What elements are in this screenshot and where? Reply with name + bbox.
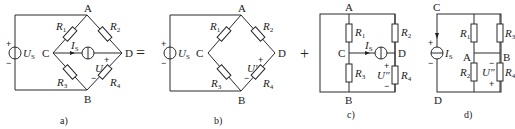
node-b-label: B xyxy=(238,94,245,106)
r3-label: R3 xyxy=(504,27,515,41)
caption-a: a) xyxy=(60,115,68,127)
node-d-label: D xyxy=(434,94,442,106)
r3-label: R3 xyxy=(210,77,222,91)
r1-label: R1 xyxy=(55,20,67,34)
resistor-r4 xyxy=(392,66,398,84)
r1-label: R1 xyxy=(459,27,471,41)
equals-operator: = xyxy=(136,44,145,61)
u-minus: − xyxy=(91,73,96,83)
u-minus: − xyxy=(489,58,494,68)
resistor-r1 xyxy=(346,24,352,42)
node-a-label: A xyxy=(463,51,471,63)
u-minus: − xyxy=(244,73,249,83)
r3-label: R3 xyxy=(354,67,366,81)
u-minus: − xyxy=(384,81,389,91)
is-label: IS xyxy=(70,39,79,53)
us-minus: − xyxy=(6,58,11,68)
us-label: US xyxy=(23,47,35,61)
r1-label: R1 xyxy=(209,20,221,34)
resistor-r1 xyxy=(471,24,477,42)
u-plus: + xyxy=(104,55,109,65)
caption-c: c) xyxy=(347,109,355,121)
panel-d: C D A B + − IS R1 R3 R2 R4 U″ − + d) xyxy=(428,1,515,121)
is-label: IS xyxy=(444,47,453,61)
u-plus: + xyxy=(258,55,263,65)
node-d-label: D xyxy=(398,47,406,59)
node-c-label: C xyxy=(196,47,203,59)
node-b-label: B xyxy=(345,94,352,106)
plus-operator: + xyxy=(300,45,309,62)
is-plus: + xyxy=(428,38,433,48)
r4-label: R4 xyxy=(109,76,121,90)
r2-label: R2 xyxy=(459,66,471,80)
node-c-label: C xyxy=(42,47,49,59)
node-b-label: B xyxy=(84,93,91,105)
u-plus: + xyxy=(489,79,494,89)
r3-label: R3 xyxy=(56,76,68,90)
resistor-r2 xyxy=(471,63,477,81)
node-c-label: C xyxy=(433,1,440,13)
resistor-r3 xyxy=(497,24,503,42)
resistor-r3 xyxy=(63,65,77,79)
caption-b: b) xyxy=(214,115,222,127)
node-a-label: A xyxy=(345,1,353,13)
resistor-r4 xyxy=(497,63,503,81)
us-label: US xyxy=(178,47,190,61)
us-plus: + xyxy=(161,39,166,49)
r2-label: R2 xyxy=(400,26,412,40)
r2-label: R2 xyxy=(262,20,274,34)
node-d-label: D xyxy=(278,47,286,59)
is-minus: − xyxy=(428,58,433,68)
node-a-label: A xyxy=(84,2,92,14)
circuit-figure: A B C D + − US IS R1 R2 R3 R4 U + − a) =… xyxy=(0,0,515,129)
node-c-label: C xyxy=(338,47,345,59)
panel-c: A B C D IS R1 R2 R3 R4 U″ + − c) xyxy=(320,1,412,121)
resistor-r2 xyxy=(392,24,398,42)
is-label: IS xyxy=(364,39,373,53)
panel-b: A B C D + − US R1 R2 R3 R4 U′ + − b) xyxy=(161,2,286,127)
resistor-r3 xyxy=(217,65,231,79)
node-b-label: B xyxy=(503,51,510,63)
panel-a: A B C D + − US IS R1 R2 R3 R4 U + − a) xyxy=(6,2,133,127)
node-d-label: D xyxy=(125,47,133,59)
u-label: U xyxy=(95,62,104,74)
r4-label: R4 xyxy=(262,77,274,91)
us-plus: + xyxy=(6,39,11,49)
r4-label: R4 xyxy=(400,69,412,83)
current-arrow-icon xyxy=(435,33,439,39)
node-a-label: A xyxy=(238,2,246,14)
r1-label: R1 xyxy=(354,26,366,40)
r2-label: R2 xyxy=(109,20,121,34)
caption-d: d) xyxy=(464,109,472,121)
resistor-r3 xyxy=(346,64,352,82)
u-plus: + xyxy=(384,61,389,71)
r4-label: R4 xyxy=(504,66,515,80)
us-minus: − xyxy=(161,58,166,68)
